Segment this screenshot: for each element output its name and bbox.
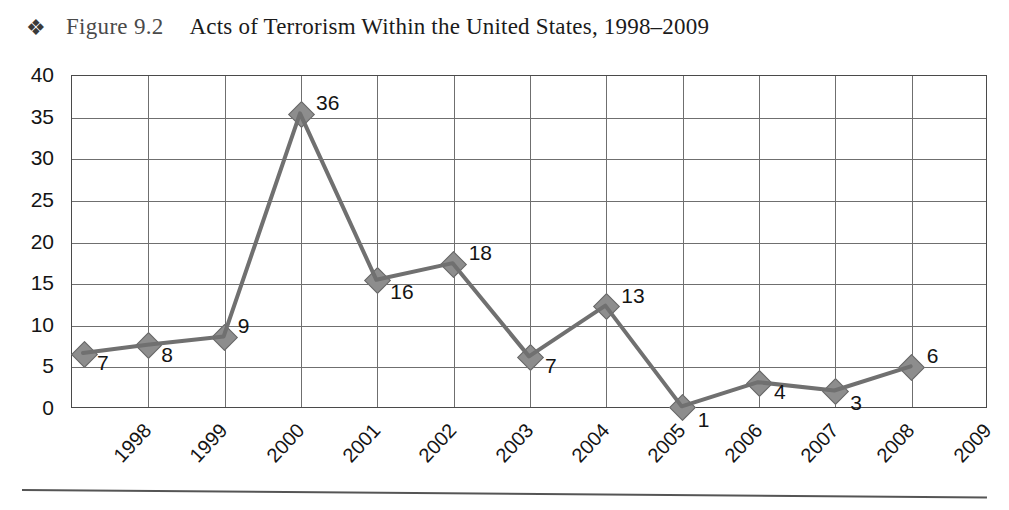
- data-point-label: 16: [390, 280, 413, 304]
- x-axis-tick-label: 2001: [338, 419, 385, 467]
- y-axis-tick-label: 5: [8, 354, 54, 378]
- x-axis-tick-label: 2003: [491, 419, 538, 467]
- data-point-marker: [288, 101, 315, 128]
- x-axis-tick-label: 2002: [414, 419, 461, 467]
- data-point-marker: [898, 354, 925, 381]
- y-axis-tick-label: 15: [8, 271, 54, 295]
- data-point-marker: [211, 324, 238, 351]
- y-axis-tick-label: 20: [8, 229, 54, 253]
- x-axis-tick-label: 2005: [643, 419, 690, 467]
- gridline-vertical: [606, 76, 607, 407]
- data-point-label: 3: [850, 391, 862, 415]
- x-axis-tick-label: 2000: [262, 419, 309, 467]
- gridline-horizontal: [72, 201, 986, 202]
- data-point-marker: [364, 267, 391, 294]
- y-axis-tick-label: 40: [8, 63, 54, 87]
- gridline-horizontal: [72, 118, 986, 119]
- y-axis-tick-label: 0: [8, 396, 54, 420]
- data-point-label: 7: [545, 354, 557, 378]
- x-axis-tick-label: 1999: [185, 419, 232, 467]
- x-axis-tick-label: 2006: [720, 419, 767, 467]
- gridline-horizontal: [72, 159, 986, 160]
- gridline-vertical: [377, 76, 378, 407]
- data-point-label: 9: [238, 314, 250, 338]
- data-point-marker: [746, 370, 773, 397]
- data-point-label: 6: [927, 344, 939, 368]
- data-point-marker: [669, 394, 696, 421]
- x-axis-tick-label: 1998: [109, 419, 156, 467]
- data-point-label: 13: [621, 284, 644, 308]
- gridline-vertical: [683, 76, 684, 407]
- x-axis-tick-label: 2009: [949, 419, 996, 467]
- data-point-marker: [71, 341, 98, 368]
- data-point-label: 4: [774, 380, 786, 404]
- y-axis-tick-label: 25: [8, 187, 54, 211]
- y-axis-tick-label: 35: [8, 104, 54, 128]
- gridline-horizontal: [72, 284, 986, 285]
- data-point-marker: [822, 378, 849, 405]
- y-axis-tick-label: 10: [8, 312, 54, 336]
- data-point-marker: [593, 293, 620, 320]
- data-point-label: 7: [97, 351, 109, 375]
- plot-area: [71, 75, 987, 408]
- x-axis-tick-label: 2004: [567, 419, 614, 467]
- data-point-marker: [135, 332, 162, 359]
- figure-page: ❖ Figure 9.2 Acts of Terrorism Within th…: [0, 0, 1009, 510]
- data-point-label: 36: [316, 91, 339, 115]
- data-point-label: 8: [161, 343, 173, 367]
- gridline-horizontal: [72, 243, 986, 244]
- data-point-marker: [440, 251, 467, 278]
- data-point-label: 1: [698, 408, 710, 432]
- gridline-vertical: [835, 76, 836, 407]
- gridline-vertical: [759, 76, 760, 407]
- gridline-vertical: [454, 76, 455, 407]
- y-axis-tick-label: 30: [8, 146, 54, 170]
- x-axis-tick-label: 2008: [872, 419, 919, 467]
- gridline-vertical: [225, 76, 226, 407]
- gridline-horizontal: [72, 326, 986, 327]
- line-chart: 0510152025303540 19981999200020012002200…: [0, 0, 1009, 510]
- x-axis-tick-label: 2007: [796, 419, 843, 467]
- data-point-label: 18: [469, 241, 492, 265]
